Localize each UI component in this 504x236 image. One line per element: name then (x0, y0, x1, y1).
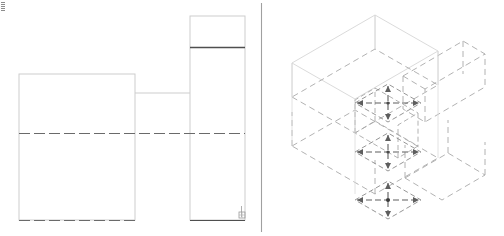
arrow-cross-middle[interactable] (355, 133, 421, 171)
datum-symbol (239, 206, 245, 218)
drawing-canvas (0, 0, 504, 236)
technical-drawing-svg (0, 0, 504, 236)
lower-right-box (405, 120, 485, 200)
orthographic-panel (19, 3, 262, 232)
upper-left-box-bottom-face (292, 49, 438, 133)
arrow-cross-upper[interactable] (355, 84, 421, 122)
front-view-rectangle (19, 74, 135, 220)
isometric-panel (292, 15, 485, 219)
upper-right-box (403, 41, 485, 122)
arrow-cross-lower[interactable] (355, 181, 421, 219)
construction-lines (292, 15, 438, 194)
center-small-boxes (355, 88, 418, 158)
side-view-rectangle (190, 16, 245, 220)
